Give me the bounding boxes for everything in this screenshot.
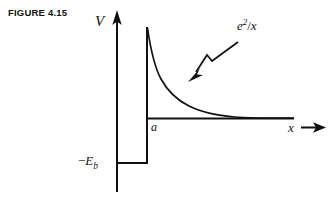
curve-callout-arrowhead [188, 68, 203, 82]
x-direction-arrow [301, 122, 326, 132]
potential-energy-diagram [0, 0, 335, 198]
figure-container: FIGURE 4.15 V a x e2/x [0, 0, 335, 198]
binding-energy-subscript: b [93, 161, 98, 171]
curve-equation-label: e2/x [237, 18, 257, 32]
y-axis-group [112, 10, 121, 192]
curve-equation-variable: x [251, 18, 257, 33]
coulomb-tail-curve [148, 28, 294, 118]
x-tick-label-a: a [151, 121, 157, 133]
y-tick-label-binding-energy: −Eb [78, 154, 98, 171]
y-axis-label: V [95, 14, 104, 29]
curve-callout-arrow-shaft [196, 42, 238, 72]
curve-callout-arrow [188, 42, 238, 82]
x-axis-label: x [288, 121, 294, 134]
